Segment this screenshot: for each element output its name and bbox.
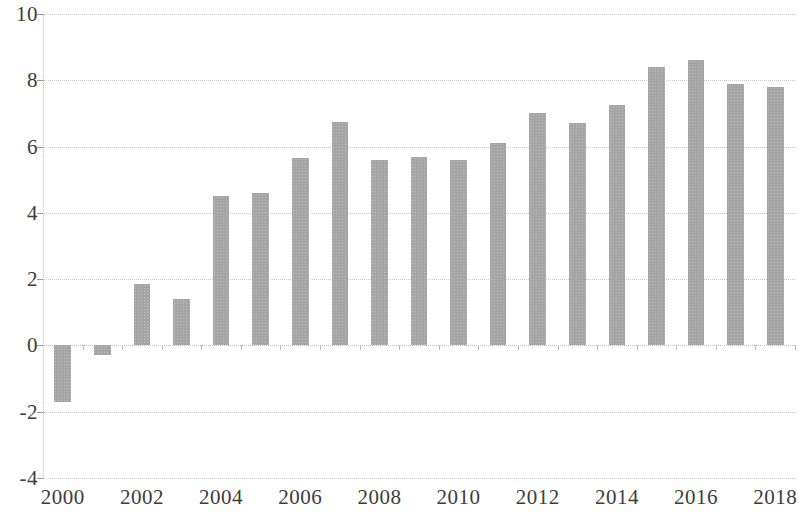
y-axis-tick-label: 0 <box>0 335 38 356</box>
bar-2004 <box>213 196 230 345</box>
x-tick-mark <box>360 345 361 350</box>
bar-2002 <box>134 284 151 345</box>
y-tick-mark-6 <box>37 147 43 148</box>
bar-2014 <box>609 105 626 345</box>
x-tick-mark <box>280 345 281 350</box>
gridline--4 <box>43 478 795 479</box>
x-axis-tick-label: 2014 <box>595 487 639 508</box>
y-tick-mark-0 <box>37 345 43 346</box>
bar-2017 <box>727 84 744 346</box>
x-tick-mark <box>755 345 756 350</box>
y-axis-labels: 1086420-2-4 <box>0 0 38 515</box>
x-tick-mark <box>518 345 519 350</box>
y-axis-tick-label: 4 <box>0 202 38 223</box>
y-tick-mark--2 <box>37 412 43 413</box>
bar-2008 <box>371 160 388 346</box>
x-axis-tick-label: 2004 <box>199 487 243 508</box>
x-tick-mark <box>795 345 796 350</box>
gridline--2 <box>43 412 795 413</box>
bar-2018 <box>767 87 784 346</box>
bar-2015 <box>648 67 665 345</box>
x-tick-mark <box>478 345 479 350</box>
x-axis-tick-label: 2016 <box>674 487 718 508</box>
gridline-6 <box>43 147 795 148</box>
bar-2009 <box>411 157 428 346</box>
y-axis-tick-label: 2 <box>0 269 38 290</box>
y-tick-mark--4 <box>37 478 43 479</box>
x-axis-tick-label: 2006 <box>278 487 322 508</box>
x-tick-mark <box>201 345 202 350</box>
bar-2001 <box>94 345 111 355</box>
y-axis-tick-label: -2 <box>0 401 38 422</box>
x-tick-mark <box>637 345 638 350</box>
gridline-0 <box>43 345 795 346</box>
x-tick-mark <box>122 345 123 350</box>
bar-2007 <box>332 122 349 346</box>
x-tick-mark <box>558 345 559 350</box>
gridline-8 <box>43 80 795 81</box>
y-axis-tick-label: 6 <box>0 136 38 157</box>
bar-2011 <box>490 143 507 345</box>
y-tick-mark-10 <box>37 14 43 15</box>
x-axis-labels: 2000200220042006200820102012201420162018 <box>0 487 799 515</box>
x-tick-mark <box>83 345 84 350</box>
y-axis-tick-label: 10 <box>0 4 38 25</box>
bar-2005 <box>252 193 269 345</box>
x-axis-tick-label: 2018 <box>753 487 797 508</box>
x-axis-tick-label: 2002 <box>120 487 164 508</box>
y-tick-mark-2 <box>37 279 43 280</box>
x-tick-mark <box>162 345 163 350</box>
y-axis-line <box>43 14 44 478</box>
bar-2010 <box>450 160 467 346</box>
y-axis-tick-label: 8 <box>0 70 38 91</box>
x-axis-tick-label: 2010 <box>437 487 481 508</box>
y-axis-tick-label: -4 <box>0 468 38 489</box>
x-tick-mark <box>676 345 677 350</box>
x-axis-tick-label: 2000 <box>41 487 85 508</box>
x-tick-mark <box>439 345 440 350</box>
bar-2000 <box>54 345 71 401</box>
y-tick-mark-8 <box>37 80 43 81</box>
bar-2016 <box>688 60 705 345</box>
bar-2013 <box>569 123 586 345</box>
x-axis-tick-label: 2012 <box>516 487 560 508</box>
plot-area <box>43 14 795 478</box>
gridline-10 <box>43 14 795 15</box>
y-tick-mark-4 <box>37 213 43 214</box>
bar-2012 <box>529 113 546 345</box>
bar-chart: 1086420-2-4 2000200220042006200820102012… <box>0 0 799 515</box>
bar-2003 <box>173 299 190 345</box>
x-axis-tick-label: 2008 <box>357 487 401 508</box>
x-tick-mark <box>241 345 242 350</box>
x-tick-mark <box>597 345 598 350</box>
x-tick-mark <box>320 345 321 350</box>
x-tick-mark <box>399 345 400 350</box>
x-tick-mark <box>716 345 717 350</box>
bar-2006 <box>292 158 309 345</box>
